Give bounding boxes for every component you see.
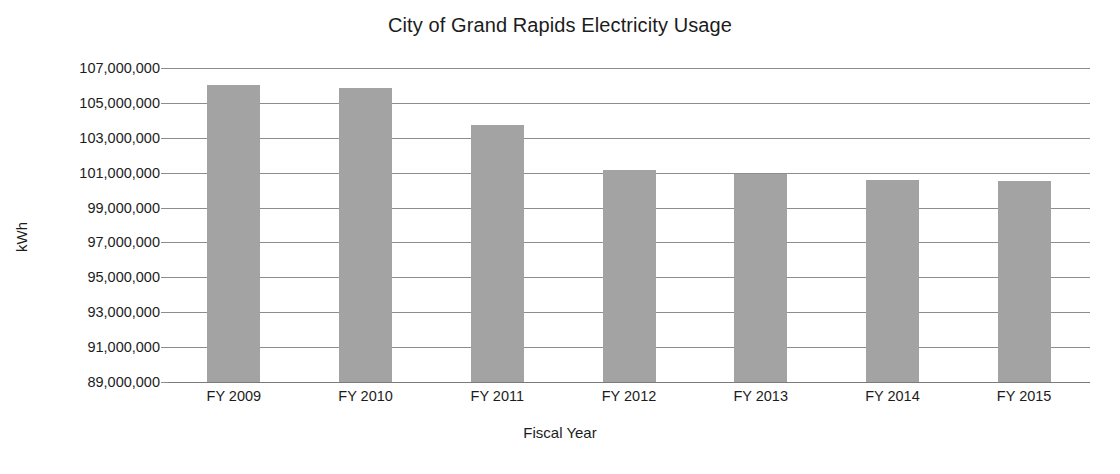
bar (207, 85, 260, 382)
y-axis-tick-label: 105,000,000 (79, 95, 160, 111)
y-axis-tick-mark (161, 138, 168, 139)
bar (603, 170, 656, 382)
bar (734, 174, 787, 382)
gridline (168, 382, 1090, 383)
y-axis-tick-mark (161, 242, 168, 243)
y-axis-tick-label: 103,000,000 (79, 130, 160, 146)
y-axis-tick-mark (161, 103, 168, 104)
y-axis-tick-mark (161, 347, 168, 348)
y-axis-tick-mark (161, 68, 168, 69)
x-axis-tick-label: FY 2010 (306, 388, 426, 404)
y-axis-tick-label: 91,000,000 (87, 339, 160, 355)
bar (339, 88, 392, 382)
y-axis-tick-label: 99,000,000 (87, 200, 160, 216)
y-axis-tick-label: 97,000,000 (87, 234, 160, 250)
y-axis-tick-label: 93,000,000 (87, 304, 160, 320)
y-axis-tick-labels: 107,000,000105,000,000103,000,000101,000… (0, 68, 160, 382)
y-axis-tick-mark (161, 173, 168, 174)
y-axis-tick-label: 95,000,000 (87, 269, 160, 285)
y-axis-tick-label: 89,000,000 (87, 374, 160, 390)
x-axis-tick-label: FY 2012 (569, 388, 689, 404)
bar-chart: City of Grand Rapids Electricity Usage k… (0, 0, 1120, 474)
x-axis-tick-label: FY 2014 (832, 388, 952, 404)
x-axis-title: Fiscal Year (0, 424, 1120, 441)
plot-area (168, 68, 1090, 382)
gridline (168, 68, 1090, 69)
x-axis-tick-label: FY 2015 (964, 388, 1084, 404)
y-axis-tick-mark (161, 277, 168, 278)
y-axis-tick-label: 101,000,000 (79, 165, 160, 181)
x-axis-tick-label: FY 2009 (174, 388, 294, 404)
y-axis-tick-mark (161, 208, 168, 209)
y-axis-tick-mark (161, 312, 168, 313)
bar (998, 181, 1051, 382)
bar (471, 125, 524, 382)
gridline (168, 138, 1090, 139)
x-axis-tick-label: FY 2013 (701, 388, 821, 404)
y-axis-tick-label: 107,000,000 (79, 60, 160, 76)
gridline (168, 103, 1090, 104)
chart-title: City of Grand Rapids Electricity Usage (0, 14, 1120, 37)
x-axis-tick-label: FY 2011 (437, 388, 557, 404)
bar (866, 180, 919, 382)
y-axis-tick-mark (161, 382, 168, 383)
